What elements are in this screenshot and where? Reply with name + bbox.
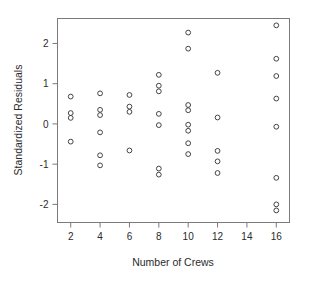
y-tick-label: -2 [40, 199, 49, 210]
x-tick-label: 12 [212, 231, 224, 242]
scatter-plot-figure: -2-1012 246810121416 Number of Crews Sta… [0, 0, 310, 281]
x-tick-label: 4 [97, 231, 103, 242]
x-axis-title: Number of Crews [132, 256, 214, 268]
y-tick-label: -1 [40, 159, 49, 170]
x-tick-label: 2 [68, 231, 74, 242]
y-tick-label: 2 [43, 38, 49, 49]
y-tick-label: 0 [43, 119, 49, 130]
plot-canvas: -2-1012 246810121416 Number of Crews Sta… [0, 0, 310, 281]
x-tick-label: 8 [156, 231, 162, 242]
x-tick-label: 10 [183, 231, 195, 242]
x-tick-label: 14 [241, 231, 253, 242]
y-axis-title: Standardized Residuals [12, 65, 24, 176]
x-tick-label: 16 [271, 231, 283, 242]
y-tick-label: 1 [43, 78, 49, 89]
x-tick-label: 6 [127, 231, 133, 242]
